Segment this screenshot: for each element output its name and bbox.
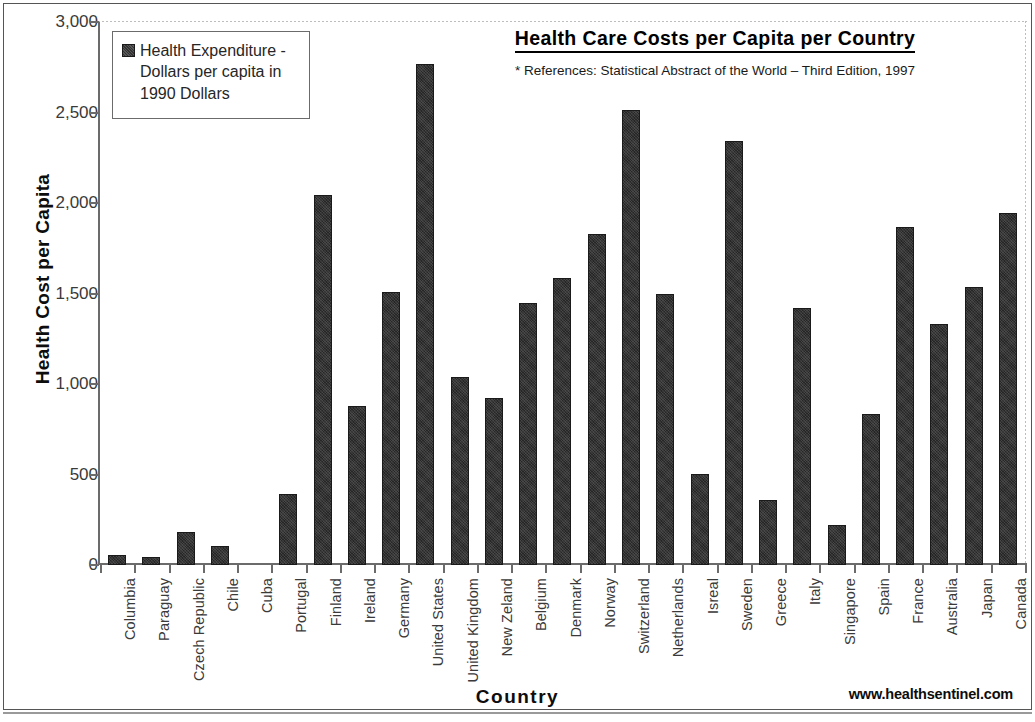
- x-tick-mark: [648, 565, 650, 573]
- x-tick-mark: [682, 565, 684, 573]
- x-tick-label: Isreal: [705, 578, 721, 614]
- y-tick-mark: [90, 293, 99, 295]
- bar: [930, 324, 948, 565]
- bar: [142, 557, 160, 565]
- bar: [279, 494, 297, 565]
- x-tick-label: Italy: [807, 578, 823, 605]
- x-tick-mark: [134, 565, 136, 573]
- bar-slot: [306, 22, 340, 565]
- chart-title: Health Care Costs per Capita per Country: [455, 27, 975, 50]
- bar: [314, 195, 332, 565]
- y-tick-mark: [90, 112, 99, 114]
- x-tick-label: France: [910, 578, 926, 624]
- x-tick-label: Germany: [396, 578, 412, 638]
- x-tick-mark: [854, 565, 856, 573]
- x-tick-label: Switzerland: [636, 578, 652, 654]
- x-tick-label: Denmark: [568, 578, 584, 638]
- x-tick-mark: [888, 565, 890, 573]
- bar: [656, 294, 674, 566]
- bar: [348, 406, 366, 565]
- bar: [416, 64, 434, 565]
- bar-slot: [340, 22, 374, 565]
- bar: [519, 303, 537, 565]
- bar-slot: [682, 22, 716, 565]
- y-axis-title: Health Cost per Capita: [32, 164, 54, 394]
- x-tick-mark: [717, 565, 719, 573]
- x-tick-mark: [991, 565, 993, 573]
- bar: [965, 287, 983, 565]
- bar: [691, 474, 709, 565]
- x-tick-label: Netherlands: [670, 578, 686, 657]
- x-tick-mark: [1025, 565, 1027, 573]
- y-tick-label: 2,500: [34, 103, 98, 123]
- x-tick-mark: [614, 565, 616, 573]
- bar-slot: [888, 22, 922, 565]
- x-tick-label: Ireland: [362, 578, 378, 623]
- bar: [177, 532, 195, 565]
- bar-slot: [545, 22, 579, 565]
- x-tick-mark: [545, 565, 547, 573]
- x-tick-label: Japan: [979, 578, 995, 618]
- bar-slot: [854, 22, 888, 565]
- bar: [999, 213, 1017, 565]
- x-tick-mark: [922, 565, 924, 573]
- x-tick-label: Belgium: [533, 578, 549, 631]
- x-tick-mark: [100, 565, 102, 573]
- bar-slot: [956, 22, 990, 565]
- bar: [382, 292, 400, 565]
- x-tick-mark: [785, 565, 787, 573]
- x-tick-mark: [477, 565, 479, 573]
- bar: [211, 546, 229, 565]
- bar-slot: [614, 22, 648, 565]
- x-tick-label: United Kingdom: [465, 578, 481, 683]
- bar-slot: [374, 22, 408, 565]
- bar: [622, 110, 640, 565]
- bar: [828, 525, 846, 565]
- x-tick-label: Portugal: [293, 578, 309, 633]
- y-tick-label: 0: [34, 555, 98, 575]
- bar: [862, 414, 880, 565]
- y-tick-mark: [90, 474, 99, 476]
- x-tick-label: New Zeland: [499, 578, 515, 656]
- bar: [793, 308, 811, 565]
- x-tick-label: Greece: [773, 578, 789, 626]
- x-tick-mark: [203, 565, 205, 573]
- x-tick-label: Czech Republic: [191, 578, 207, 681]
- y-tick-mark: [90, 564, 99, 566]
- chart-subtitle: * References: Statistical Abstract of th…: [455, 63, 975, 78]
- x-tick-mark: [408, 565, 410, 573]
- legend-label-line1: Health Expenditure -: [140, 42, 286, 59]
- chart-title-text: Health Care Costs per Capita per Country: [515, 27, 916, 53]
- x-tick-mark: [340, 565, 342, 573]
- bar: [108, 555, 126, 565]
- x-tick-mark: [374, 565, 376, 573]
- x-tick-label: Australia: [944, 578, 960, 635]
- x-tick-mark: [580, 565, 582, 573]
- bar: [451, 377, 469, 565]
- legend-label-line3: 1990 Dollars: [140, 85, 230, 102]
- legend-swatch-icon: [122, 44, 135, 57]
- bar-slot: [408, 22, 442, 565]
- x-tick-mark: [306, 565, 308, 573]
- bar: [725, 141, 743, 565]
- x-tick-mark: [237, 565, 239, 573]
- bar-slot: [991, 22, 1025, 565]
- frame-shadow: [3, 712, 1032, 714]
- x-tick-mark: [511, 565, 513, 573]
- x-tick-label: Spain: [876, 578, 892, 616]
- bar-slot: [580, 22, 614, 565]
- chart-legend: Health Expenditure -Dollars per capita i…: [112, 31, 310, 119]
- site-credit: www.healthsentinel.com: [849, 686, 1013, 702]
- y-tick-mark: [90, 202, 99, 204]
- x-tick-label: Paraguay: [156, 578, 172, 641]
- y-tick-label: 3,000: [34, 12, 98, 32]
- y-tick-mark: [90, 383, 99, 385]
- bar-slot: [751, 22, 785, 565]
- bar-slot: [922, 22, 956, 565]
- y-tick-mark: [90, 21, 99, 23]
- x-tick-mark: [819, 565, 821, 573]
- x-tick-label: Chile: [225, 578, 241, 612]
- bar: [896, 227, 914, 565]
- chart-page: 05001,0001,5002,0002,5003,000 Health Cos…: [0, 0, 1035, 722]
- legend-entry: Health Expenditure -Dollars per capita i…: [122, 40, 302, 104]
